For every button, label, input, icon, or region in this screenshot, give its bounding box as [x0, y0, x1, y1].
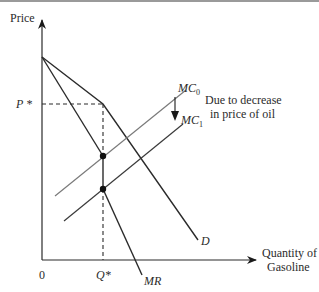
mc1-curve: [64, 124, 183, 221]
y-axis-label: Price: [10, 11, 35, 25]
mc0-mr-intersection-dot: [100, 153, 106, 159]
mr-curve-lower: [103, 189, 142, 275]
q-star-label: Q*: [96, 268, 111, 282]
annotation-line-1: Due to decrease: [205, 93, 282, 107]
mc1-label: MC1: [180, 113, 203, 129]
kinked-demand-diagram: Price P * 0 Q* MR D MC0 MC1 Due to decre…: [0, 0, 319, 292]
mr-curve-upper: [42, 57, 103, 156]
annotation-line-2: in price of oil: [210, 107, 276, 121]
shift-arrow-head: [171, 111, 179, 121]
demand-curve: [42, 57, 198, 240]
mc0-label: MC0: [177, 81, 200, 97]
origin-label: 0: [39, 268, 45, 282]
mc1-mr-intersection-dot: [100, 186, 106, 192]
x-axis-label-line-1: Quantity of: [262, 246, 317, 260]
mr-label: MR: [143, 274, 162, 288]
mc0-curve: [55, 90, 186, 196]
d-label: D: [200, 234, 210, 248]
x-axis-label-line-2: Gasoline: [267, 260, 310, 274]
p-star-label: P *: [15, 97, 32, 111]
